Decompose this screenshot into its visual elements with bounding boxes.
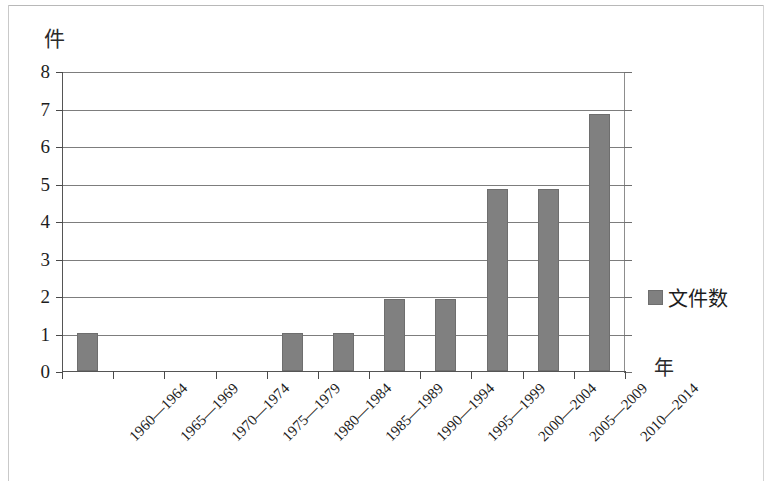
bar — [435, 299, 456, 371]
y-axis-tick-label: 4 — [41, 211, 51, 233]
y-axis-tick-label: 2 — [41, 286, 51, 308]
y-axis-tick — [56, 185, 63, 186]
x-axis-line — [62, 371, 625, 372]
x-axis-tick — [267, 371, 268, 379]
y-axis-tick-right — [624, 222, 632, 223]
x-axis-tick — [113, 371, 114, 379]
y-axis-tick — [56, 147, 63, 148]
y-axis-tick-right — [624, 260, 632, 261]
x-axis-tick — [523, 371, 524, 379]
bar — [333, 333, 354, 371]
x-axis-tick — [164, 371, 165, 379]
y-axis-tick — [56, 110, 63, 111]
bar — [384, 299, 405, 371]
x-axis-tick — [420, 371, 421, 379]
bar — [77, 333, 98, 371]
y-axis-tick-label: 8 — [41, 61, 51, 83]
y-axis-tick-label: 5 — [41, 174, 51, 196]
x-axis-tick — [318, 371, 319, 379]
x-axis-tick — [216, 371, 217, 379]
y-axis-tick-label: 3 — [41, 249, 51, 271]
scan-border-left — [8, 5, 9, 481]
y-axis-tick-right — [624, 335, 632, 336]
bar — [487, 189, 508, 371]
x-axis-tick — [471, 371, 472, 379]
x-axis-tick — [62, 371, 63, 379]
y-axis-tick-right — [624, 185, 632, 186]
y-axis-tick-label: 0 — [41, 361, 51, 383]
y-axis-tick-right — [624, 72, 632, 73]
legend-square-swatch-icon — [648, 290, 663, 305]
x-axis-tick — [369, 371, 370, 379]
y-axis-tick — [56, 260, 63, 261]
y-axis-tick — [56, 72, 63, 73]
x-axis-tick — [625, 371, 626, 379]
y-axis-tick-right — [624, 147, 632, 148]
y-axis-tick-right — [624, 297, 632, 298]
gridline — [62, 185, 625, 186]
gridline — [62, 72, 625, 73]
legend: 文件数 — [648, 283, 728, 312]
y-axis-tick-right — [624, 110, 632, 111]
y-axis-tick — [56, 222, 63, 223]
bar — [589, 114, 610, 371]
x-axis-tick — [574, 371, 575, 379]
bar — [282, 333, 303, 371]
plot-area: 012345678 — [62, 72, 625, 372]
y-axis-tick — [56, 297, 63, 298]
x-axis-title: 年 — [654, 352, 674, 381]
gridline — [62, 147, 625, 148]
scan-border-top — [8, 5, 764, 6]
gridline — [62, 110, 625, 111]
y-axis-tick-label: 6 — [41, 136, 51, 158]
y-axis-tick — [56, 335, 63, 336]
y-axis-title: 件 — [44, 22, 65, 52]
chart-page: 件 年 012345678 1960—19641965—19691970—197… — [0, 0, 772, 495]
scan-border-right — [763, 5, 764, 481]
legend-label: 文件数 — [668, 283, 728, 312]
y-axis-tick-label: 7 — [41, 99, 51, 121]
bar — [538, 189, 559, 371]
y-axis-tick-label: 1 — [41, 324, 51, 346]
